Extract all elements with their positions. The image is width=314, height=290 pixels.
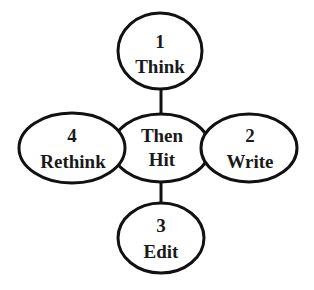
center-line1: Then (141, 125, 184, 146)
edit-label: Edit (144, 241, 180, 262)
node-think: 1 Think (118, 13, 202, 89)
edit-number: 3 (156, 215, 166, 236)
center-node: Then Hit (112, 114, 210, 182)
think-number: 1 (155, 31, 165, 52)
node-edit: 3 Edit (118, 203, 204, 273)
writing-process-diagram: Then Hit 1 Think 4 Rethink 2 Write 3 Edi… (0, 0, 314, 290)
write-number: 2 (245, 125, 255, 146)
rethink-label: Rethink (40, 151, 106, 172)
think-label: Think (135, 56, 185, 77)
write-label: Write (226, 151, 273, 172)
edit-ellipse (118, 203, 204, 273)
rethink-number: 4 (67, 125, 77, 146)
rethink-ellipse (19, 113, 125, 183)
center-line2: Hit (149, 149, 176, 170)
node-rethink: 4 Rethink (19, 113, 125, 183)
node-write: 2 Write (201, 114, 297, 182)
